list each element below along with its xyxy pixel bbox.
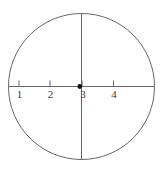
number-line-circle-figure: 1 2 3 4 xyxy=(0,0,161,174)
tick-label-3: 3 xyxy=(76,89,90,100)
figure-canvas xyxy=(0,0,161,174)
tick-label-2: 2 xyxy=(44,89,58,100)
tick-label-1: 1 xyxy=(13,89,27,100)
tick-label-4: 4 xyxy=(107,89,121,100)
